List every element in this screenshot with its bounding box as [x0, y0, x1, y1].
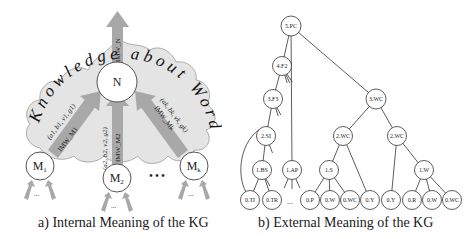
tree-stub	[269, 144, 273, 153]
node-n: N	[97, 62, 137, 102]
tree-node-tr: 0.TR	[263, 191, 282, 210]
tree-node-label: 3.WC	[369, 96, 383, 102]
svg-text:M: M	[110, 171, 121, 185]
tree-node-r: 0.R	[403, 191, 422, 210]
tree-ellipsis: ...	[287, 197, 293, 206]
caption-internal: a) Internal Meaning of the KG	[38, 215, 209, 231]
tree-node-bwc1: 0.WC	[341, 191, 360, 210]
tree-node-bs: 1.BS	[253, 161, 272, 180]
svg-text:...: ...	[188, 190, 194, 198]
internal-meaning-diagram: IMW_N IMW_M1 (a1, b1, v1, g1) IMW_M2 (a2…	[24, 11, 226, 212]
tree-node-p: 0.P	[301, 191, 320, 210]
node-m1: M 1 ...	[24, 152, 56, 200]
tree-node-y2: 0.Y	[382, 191, 401, 210]
svg-text:2: 2	[120, 178, 124, 186]
tree-node-wa: 0.W	[423, 191, 442, 210]
tree-node-wc2a: 2.WC	[334, 127, 353, 146]
tree-node-ls: 1.S	[320, 161, 339, 180]
tree-node-label: 0.TI	[245, 197, 255, 203]
tree-stub	[284, 178, 288, 188]
tree-node-label: 5.PC	[285, 23, 297, 29]
tree-node-label: 1.AP	[286, 167, 299, 173]
tree-node-f2: 4.F2	[273, 57, 292, 76]
node-mk: M k ...	[178, 152, 210, 200]
tree-node-label: 2.SI	[261, 133, 271, 139]
svg-text:M: M	[33, 159, 44, 173]
tree-edge	[291, 26, 376, 99]
svg-text:M: M	[187, 159, 198, 173]
tree-node-ti: 0.TI	[241, 191, 260, 210]
tree-node-label: 1.W	[419, 167, 430, 173]
tree-node-wc2b: 2.WC	[388, 127, 407, 146]
arrow-m2-label: IMW_M2	[114, 133, 122, 162]
svg-text:...: ...	[34, 190, 40, 198]
tree-node-pc: 5.PC	[281, 16, 301, 36]
caption-external: b) External Meaning of the KG	[258, 215, 433, 231]
tree-node-iwc: 1.W	[415, 161, 434, 180]
node-m2: M 2 ...	[101, 164, 133, 212]
tree-edge	[343, 136, 370, 200]
tree-edge	[291, 26, 292, 170]
tree-node-label: 1.BS	[256, 167, 268, 173]
svg-text:...: ...	[111, 202, 117, 210]
tree-node-label: 2.WC	[390, 133, 404, 139]
tree-node-label: 0.W	[325, 197, 336, 203]
tree-node-label: 0.WC	[445, 197, 459, 203]
tree-node-label: 2.WC	[336, 133, 350, 139]
tree-node-label: 0.WC	[343, 197, 357, 203]
tuple-m2: (a2, b2, v2, g2)	[101, 127, 109, 170]
ellipsis: • • •	[149, 170, 165, 181]
svg-text:N: N	[113, 75, 122, 89]
tree-node-w1: 0.W	[321, 191, 340, 210]
tree-node-label: 0.W	[427, 197, 438, 203]
tree-stub	[296, 178, 300, 188]
tree-node-y1: 0.Y	[361, 191, 380, 210]
tree-node-label: 0.TR	[266, 197, 278, 203]
tree-node-f3: 3.F3	[264, 90, 283, 109]
external-meaning-tree: 5.PC4.F23.F32.SI1.BS1.AP3.WC2.WC2.WC1.S1…	[241, 16, 462, 210]
tree-node-ap: 1.AP	[283, 161, 302, 180]
tree-node-label: 0.R	[408, 197, 417, 203]
diagram-canvas: IMW_N IMW_M1 (a1, b1, v1, g1) IMW_M2 (a2…	[0, 0, 466, 239]
svg-text:1: 1	[43, 166, 47, 174]
tree-node-label: 1.S	[325, 167, 333, 173]
svg-text:k: k	[197, 166, 201, 174]
tree-node-label: 4.F2	[277, 63, 288, 69]
tree-node-label: 0.Y	[366, 197, 376, 203]
tree-node-label: 0.Y	[387, 197, 397, 203]
tree-node-wc3: 3.WC	[366, 89, 386, 109]
tree-node-si: 2.SI	[257, 127, 276, 146]
tree-node-label: 3.F3	[268, 96, 279, 102]
tree-node-bwc2: 0.WC	[443, 191, 462, 210]
tree-node-label: 0.P	[306, 197, 315, 203]
